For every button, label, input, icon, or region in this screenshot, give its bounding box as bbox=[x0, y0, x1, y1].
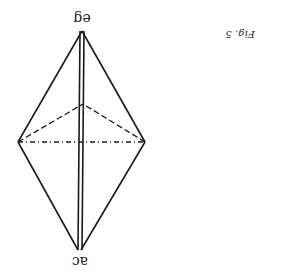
figure-canvas: eg ac Fig. 5 bbox=[0, 0, 283, 274]
svg-text:eg: eg bbox=[73, 11, 90, 27]
bipyramid-diagram: eg ac Fig. 5 bbox=[0, 0, 283, 274]
solid-edges bbox=[18, 31, 145, 250]
svg-text:ac: ac bbox=[72, 254, 88, 270]
vertex-label-top: eg bbox=[73, 11, 90, 27]
figure-caption: Fig. 5 bbox=[225, 29, 255, 40]
svg-text:Fig. 5: Fig. 5 bbox=[225, 29, 255, 40]
vertex-label-bottom: ac bbox=[72, 254, 88, 270]
